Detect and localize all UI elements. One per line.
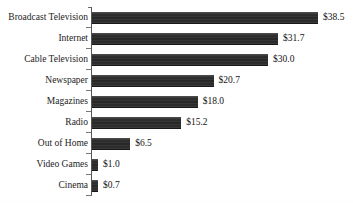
- category-label: Video Games: [0, 154, 88, 175]
- category-label: Internet: [0, 28, 88, 49]
- bar-row: Radio$15.2: [0, 112, 353, 133]
- category-label: Magazines: [0, 91, 88, 112]
- bar-chart: Broadcast Television$38.5Internet$31.7Ca…: [0, 0, 353, 203]
- bar: [92, 180, 98, 192]
- category-label: Broadcast Television: [0, 7, 88, 28]
- bar-value-label: $0.7: [103, 179, 120, 191]
- bar-row: Out of Home$6.5: [0, 133, 353, 154]
- category-label: Cable Television: [0, 49, 88, 70]
- bar-value-label: $31.7: [283, 32, 304, 44]
- bar-value-label: $30.0: [273, 53, 294, 65]
- bar: [92, 96, 198, 108]
- category-label: Out of Home: [0, 133, 88, 154]
- category-label: Radio: [0, 112, 88, 133]
- bar-row: Cable Television$30.0: [0, 49, 353, 70]
- bar-value-label: $18.0: [203, 95, 224, 107]
- bar-row: Newspaper$20.7: [0, 70, 353, 91]
- bar: [92, 159, 98, 171]
- bar: [92, 12, 318, 24]
- bar: [92, 33, 278, 45]
- bar-value-label: $20.7: [219, 74, 240, 86]
- bar: [92, 138, 130, 150]
- bar-value-label: $1.0: [103, 158, 120, 170]
- category-label: Cinema: [0, 175, 88, 196]
- bar-row: Video Games$1.0: [0, 154, 353, 175]
- bar-value-label: $15.2: [186, 116, 207, 128]
- cropped-title-remnant: [24, 0, 104, 5]
- bar-row: Cinema$0.7: [0, 175, 353, 196]
- bar-value-label: $6.5: [135, 137, 152, 149]
- bar: [92, 75, 214, 87]
- bar-row: Broadcast Television$38.5: [0, 7, 353, 28]
- bar-row: Internet$31.7: [0, 28, 353, 49]
- bar-row: Magazines$18.0: [0, 91, 353, 112]
- category-label: Newspaper: [0, 70, 88, 91]
- bar: [92, 54, 268, 66]
- axis-tick: [86, 195, 91, 196]
- bar: [92, 117, 181, 129]
- bar-value-label: $38.5: [323, 11, 344, 23]
